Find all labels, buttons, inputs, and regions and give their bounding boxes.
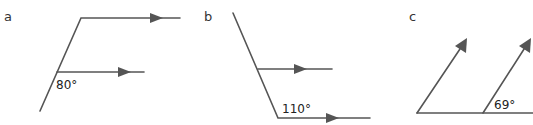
figure-b-label: b xyxy=(204,9,212,24)
arrow-icon xyxy=(455,38,467,53)
parallel-lines-diagram: a 80° b 110° c 69° xyxy=(0,0,533,125)
figure-a: a 80° xyxy=(4,9,180,111)
figure-a-label: a xyxy=(4,9,12,24)
figure-b-angle-label: 110° xyxy=(282,102,311,116)
arrow-icon xyxy=(294,64,307,74)
figure-b: b 110° xyxy=(204,9,370,123)
figure-c-angle-label: 69° xyxy=(494,98,515,112)
figure-c-left-ray xyxy=(417,46,462,113)
arrow-icon xyxy=(519,38,531,53)
figure-a-transversal-and-top-line xyxy=(40,18,180,111)
arrow-icon xyxy=(326,113,339,123)
figure-c: c 69° xyxy=(409,9,533,113)
arrow-icon xyxy=(118,67,131,77)
arrow-icon xyxy=(150,13,163,23)
figure-a-angle-label: 80° xyxy=(56,78,77,92)
figure-c-label: c xyxy=(409,9,416,24)
